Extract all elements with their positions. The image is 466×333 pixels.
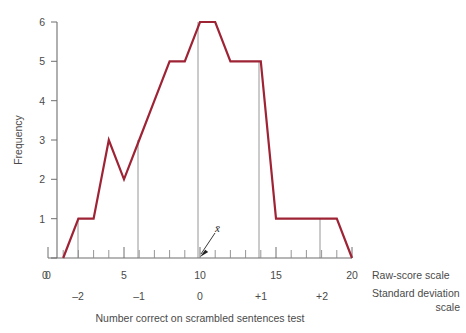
y-tick-label-4: 4 bbox=[39, 95, 45, 107]
mean-arrow-line bbox=[201, 233, 215, 254]
sd-scale-caption-line1: Standard deviation bbox=[372, 287, 460, 299]
y-axis: 6 5 4 3 2 1 0 Frequency bbox=[12, 16, 57, 281]
y-tick-label-6: 6 bbox=[39, 16, 45, 28]
y-tick-label-2: 2 bbox=[39, 173, 45, 185]
x-axis: 0 5 10 15 20 Number correct on scrambled… bbox=[45, 247, 358, 324]
sd-scale-caption-line2: scale bbox=[435, 301, 460, 313]
chart-svg: 6 5 4 3 2 1 0 Frequency bbox=[0, 0, 466, 333]
raw-score-scale-caption: Raw-score scale bbox=[372, 269, 450, 281]
y-tick-label-1: 1 bbox=[39, 213, 45, 225]
sd-scale-labels: –2 –1 0 +1 +2 bbox=[72, 290, 328, 302]
sd-label-zero: 0 bbox=[197, 290, 203, 302]
x-tick-label-10: 10 bbox=[194, 269, 206, 281]
frequency-polygon-line bbox=[63, 22, 352, 258]
y-tick-label-3: 3 bbox=[39, 134, 45, 146]
mean-label: x̄ bbox=[214, 222, 220, 234]
sd-label-minus2: –2 bbox=[72, 290, 84, 302]
y-axis-title: Frequency bbox=[12, 114, 24, 164]
sd-label-plus1: +1 bbox=[255, 290, 267, 302]
x-tick-label-20: 20 bbox=[346, 269, 358, 281]
frequency-polygon-figure: 6 5 4 3 2 1 0 Frequency bbox=[0, 0, 466, 333]
x-tick-label-5: 5 bbox=[121, 269, 127, 281]
x-axis-title: Number correct on scrambled sentences te… bbox=[96, 312, 305, 324]
scale-captions: Raw-score scale Standard deviation scale bbox=[372, 269, 460, 313]
sd-label-plus2: +2 bbox=[316, 290, 328, 302]
x-tick-label-0: 0 bbox=[45, 269, 51, 281]
sd-label-minus1: –1 bbox=[133, 290, 145, 302]
sd-reference-lines bbox=[78, 22, 320, 258]
mean-annotation: x̄ bbox=[200, 222, 220, 257]
y-tick-label-5: 5 bbox=[39, 55, 45, 67]
x-tick-label-15: 15 bbox=[270, 269, 282, 281]
